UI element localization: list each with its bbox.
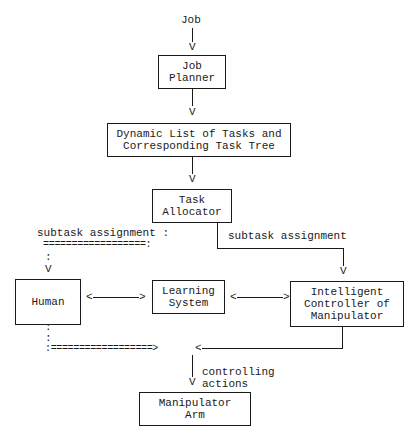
manipulator-arm-node: Manipulator Arm	[139, 392, 251, 426]
merge-dashes: :==================>	[45, 343, 158, 355]
job-input-label: Job	[181, 14, 201, 26]
arrowhead-icon: V	[340, 266, 347, 277]
controller-node: Intelligent Controller of Manipulator	[290, 281, 404, 327]
learning-controller-arrow: < >	[230, 291, 243, 339]
allocator-to-controller-line-across	[217, 248, 344, 249]
controlling-actions-label: controlling actions	[202, 366, 275, 390]
controller-down-line	[342, 327, 343, 349]
arrowhead-icon: V	[189, 107, 196, 118]
human-learning-arrow: < >	[86, 291, 99, 339]
job-planner-node: Job Planner	[158, 55, 226, 89]
allocator-to-controller-line-down	[217, 223, 218, 249]
human-node: Human	[15, 279, 81, 325]
arrowhead-icon: V	[45, 264, 52, 275]
left-subtask-colon: :	[45, 251, 52, 263]
controller-merge-line	[202, 348, 343, 349]
job-arrow-line	[192, 28, 193, 42]
list-to-allocator-line	[192, 157, 193, 174]
allocator-to-controller-line-down-2	[343, 248, 344, 266]
left-subtask-label: subtask assignment :	[37, 227, 169, 239]
task-allocator-node: Task Allocator	[152, 189, 232, 223]
controlling-actions-line	[192, 355, 193, 377]
left-subtask-dashes: ==================:	[43, 239, 151, 251]
arrowhead-icon: V	[189, 377, 196, 388]
planner-to-list-line	[192, 89, 193, 106]
arrowhead-icon: V	[189, 42, 196, 53]
learning-system-node: Learning System	[152, 280, 225, 314]
merge-left-arrowhead: <	[195, 342, 202, 354]
right-subtask-label: subtask assignment	[228, 230, 347, 242]
task-list-node: Dynamic List of Tasks and Corresponding …	[107, 123, 291, 157]
arrowhead-icon: V	[189, 174, 196, 185]
